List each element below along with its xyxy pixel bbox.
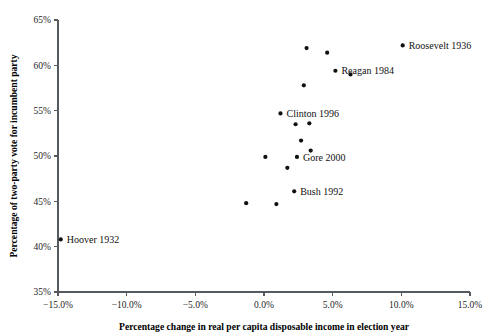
data-point: [263, 155, 267, 159]
x-axis-title: Percentage change in real per capita dis…: [119, 321, 410, 332]
data-point: [401, 43, 405, 47]
x-tick-label: −10.0%: [112, 300, 142, 310]
x-tick-label: −5.0%: [183, 300, 208, 310]
data-point: [59, 237, 63, 241]
data-point: [278, 111, 282, 115]
data-point: [292, 189, 296, 193]
y-tick-label: 35%: [34, 287, 52, 297]
data-point: [299, 138, 303, 142]
point-labels: Roosevelt 1936Reagan 1984Clinton 1996Gor…: [67, 40, 471, 245]
data-point: [274, 202, 278, 206]
plot-area: 35%40%45%50%55%60%65% −15.0%−10.0%−5.0%0…: [0, 0, 484, 336]
data-point: [293, 122, 297, 126]
x-tick-label: 15.0%: [458, 300, 483, 310]
data-point: [285, 166, 289, 170]
data-point: [304, 46, 308, 50]
y-tick-label: 65%: [34, 15, 52, 25]
point-label: Reagan 1984: [341, 65, 394, 76]
y-axis-title: Percentage of two-party vote for incumbe…: [8, 54, 19, 257]
x-tick-label: 5.0%: [323, 300, 343, 310]
x-tick-label: 0.0%: [254, 300, 274, 310]
y-tick-label: 45%: [34, 197, 52, 207]
x-tick-label: 10.0%: [389, 300, 414, 310]
data-point: [307, 121, 311, 125]
point-label: Hoover 1932: [67, 234, 120, 245]
data-point: [244, 201, 248, 205]
point-label: Gore 2000: [303, 152, 346, 163]
data-point: [325, 51, 329, 55]
x-tick-label: −15.0%: [43, 300, 73, 310]
y-tick-label: 50%: [34, 151, 52, 161]
y-tick-label: 40%: [34, 242, 52, 252]
point-label: Roosevelt 1936: [409, 40, 472, 51]
y-axis-ticks: 35%40%45%50%55%60%65%: [34, 15, 58, 297]
point-label: Clinton 1996: [286, 108, 339, 119]
x-axis-ticks: −15.0%−10.0%−5.0%0.0%5.0%10.0%15.0%: [43, 292, 482, 310]
data-point: [333, 69, 337, 73]
data-point: [302, 83, 306, 87]
scatter-chart: 35%40%45%50%55%60%65% −15.0%−10.0%−5.0%0…: [0, 0, 484, 336]
y-tick-label: 55%: [34, 106, 52, 116]
point-label: Bush 1992: [300, 186, 343, 197]
data-point: [295, 155, 299, 159]
y-tick-label: 60%: [34, 61, 52, 71]
